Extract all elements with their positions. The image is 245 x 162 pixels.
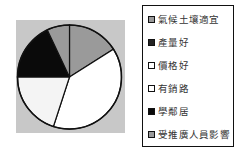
legend-item: 氣候土壤適宜: [148, 12, 220, 26]
legend-item: 有銷路: [148, 81, 189, 95]
legend-swatch: [148, 85, 155, 92]
pie-svg: [0, 0, 140, 162]
legend-swatch: [148, 16, 155, 23]
legend-swatch: [148, 131, 155, 138]
legend-label: 產量好: [158, 35, 189, 49]
legend-label: 受推廣人員影響: [158, 127, 230, 141]
legend-label: 氣候土壤適宜: [158, 12, 220, 26]
legend-item: 價格好: [148, 58, 189, 72]
legend-swatch: [148, 62, 155, 69]
legend-label: 價格好: [158, 58, 189, 72]
legend-label: 學鄰居: [158, 104, 189, 118]
legend-item: 受推廣人員影響: [148, 127, 230, 141]
legend-item: 產量好: [148, 35, 189, 49]
pie-chart: [0, 0, 140, 162]
legend: 氣候土壤適宜 產量好 價格好 有銷路 學鄰居 受推廣人員影響: [142, 5, 234, 147]
legend-label: 有銷路: [158, 81, 189, 95]
legend-swatch: [148, 39, 155, 46]
legend-item: 學鄰居: [148, 104, 189, 118]
legend-swatch: [148, 108, 155, 115]
